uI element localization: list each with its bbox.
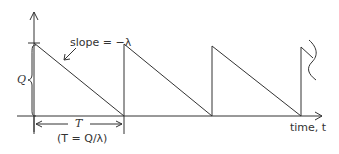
break-wave <box>309 40 317 80</box>
sawtooth-line <box>34 43 313 116</box>
sawtooth-diagram <box>0 0 339 154</box>
period-formula: (T = Q/λ) <box>57 133 107 144</box>
q-label: Q <box>17 74 26 85</box>
slope-label: slope = −λ <box>70 37 131 48</box>
q-brace <box>28 45 36 116</box>
period-label: T <box>75 118 82 129</box>
slope-pointer <box>64 48 76 60</box>
x-axis-label: time, t <box>290 122 326 133</box>
